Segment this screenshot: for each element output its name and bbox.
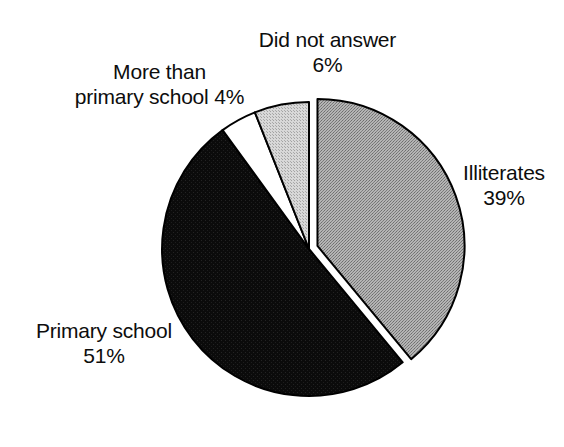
slice-label-illiterates: Illiterates 39% (452, 160, 556, 210)
slice-label-more-than-primary-school: More than primary school 4% (62, 59, 257, 109)
pie-chart-figure: Did not answer 6% More than primary scho… (0, 0, 564, 447)
slice-label-more-than-primary-school-name: More than (62, 59, 257, 84)
slice-label-illiterates-value: 39% (452, 185, 556, 210)
slice-label-primary-school-value: 51% (18, 343, 190, 368)
slice-label-more-than-primary-school-value: primary school 4% (62, 84, 257, 109)
pie-slices-group (162, 99, 464, 396)
slice-label-primary-school: Primary school 51% (18, 318, 190, 368)
slice-label-did-not-answer-value: 6% (250, 52, 405, 77)
slice-label-illiterates-name: Illiterates (452, 160, 556, 185)
slice-label-primary-school-name: Primary school (18, 318, 190, 343)
slice-label-did-not-answer: Did not answer 6% (250, 27, 405, 77)
slice-label-did-not-answer-name: Did not answer (250, 27, 405, 52)
